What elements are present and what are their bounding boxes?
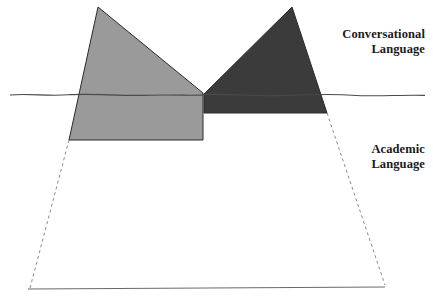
left-dashed-edge [30,140,69,288]
base-line [28,287,385,289]
light-gray-peak [69,7,203,140]
label-conversational-language: Conversational Language [313,27,425,57]
dark-gray-peak [204,7,327,113]
iceberg-diagram: Conversational Language Academic Languag… [0,0,433,301]
right-dashed-edge [327,113,385,285]
label-academic-language: Academic Language [313,142,425,172]
